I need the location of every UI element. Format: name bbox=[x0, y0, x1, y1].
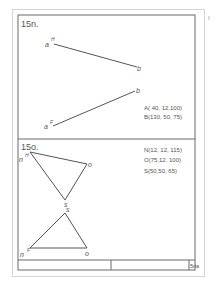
label-b-elevation: b bbox=[137, 65, 141, 72]
title-block-sheet-number: 5na bbox=[190, 263, 200, 269]
triangle-nos-plan bbox=[30, 213, 87, 248]
coord-s: S(50,50, 65) bbox=[144, 168, 177, 174]
label-o-elevation: o bbox=[88, 161, 92, 168]
coord-a: A( 40, 12,100) bbox=[144, 105, 182, 111]
problem-15o-title: 15o. bbox=[21, 142, 39, 152]
label-n-elevation: n bbox=[19, 156, 23, 163]
coord-n: N(12, 12, 115) bbox=[144, 147, 182, 153]
label-n-plan: n bbox=[20, 251, 24, 258]
label-o-plan: o bbox=[85, 250, 89, 257]
coord-o: O(75,12, 100) bbox=[144, 157, 181, 163]
label-a-sup-h: H bbox=[51, 36, 55, 42]
label-a-sup-f: F bbox=[50, 119, 54, 125]
line-ab-plan bbox=[53, 91, 135, 126]
line-ab-elevation bbox=[54, 44, 137, 67]
coord-b: B(130, 50, 75) bbox=[144, 114, 182, 120]
technical-drawing: 15n. a H b a F b A( 40, 12,100) B(130, 5… bbox=[0, 0, 221, 286]
triangle-nos-elevation bbox=[30, 152, 87, 200]
inner-frame bbox=[18, 15, 195, 270]
label-a-elevation: a bbox=[45, 41, 49, 48]
label-n-sup-h: H bbox=[25, 152, 29, 158]
problem-15n-title: 15n. bbox=[21, 19, 39, 29]
label-a-plan: a bbox=[44, 123, 48, 130]
label-b-plan: b bbox=[136, 87, 140, 94]
label-s-plan: s bbox=[66, 206, 70, 213]
